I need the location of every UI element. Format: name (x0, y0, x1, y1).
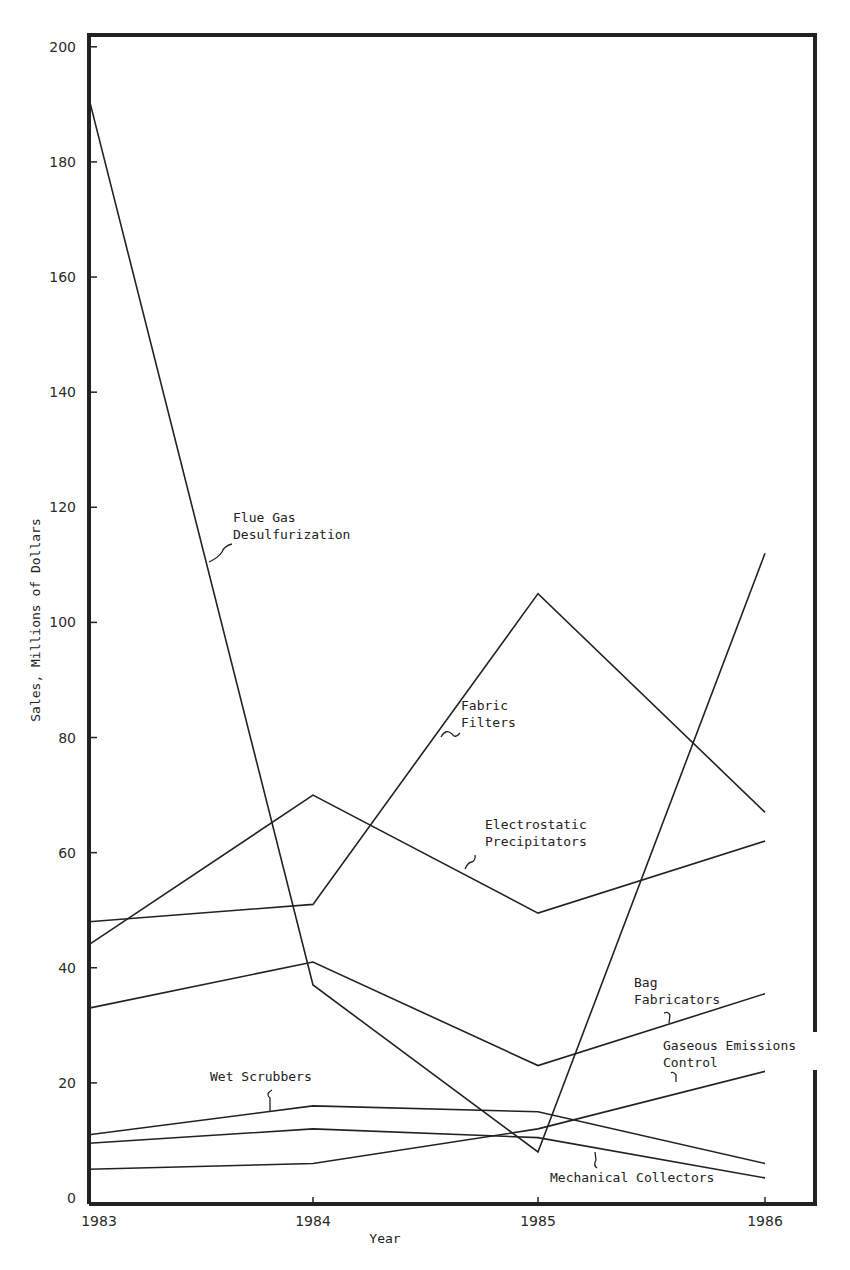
series-labels: Flue GasDesulfurizationFabricFiltersElec… (209, 510, 796, 1185)
series-label: Fabricators (634, 992, 720, 1007)
series-label: Filters (461, 715, 516, 730)
y-tick-label: 60 (58, 845, 76, 861)
frame-border (89, 35, 815, 1204)
y-tick-label: 180 (49, 154, 76, 170)
y-tick-label: 80 (58, 730, 76, 746)
series-label: Mechanical Collectors (550, 1170, 714, 1185)
y-tick-label: 40 (58, 960, 76, 976)
label-leader (595, 1152, 597, 1168)
label-leader (268, 1090, 272, 1112)
x-axis: 1983198419851986 (81, 1197, 783, 1229)
series-label: Fabric (461, 698, 508, 713)
y-tick-label: 120 (49, 499, 76, 515)
series-label: Gaseous Emissions (663, 1038, 796, 1053)
y-tick-label: 160 (49, 269, 76, 285)
x-tick-label: 1986 (747, 1213, 783, 1229)
x-tick-label: 1983 (81, 1213, 117, 1229)
y-tick-label: 140 (49, 384, 76, 400)
series-line-wet-scrubbers (89, 1106, 765, 1164)
label-leader (671, 1072, 676, 1082)
series-lines (89, 99, 765, 1178)
label-leader (664, 1012, 670, 1023)
series-label: Flue Gas (233, 510, 296, 525)
series-label: Wet Scrubbers (210, 1069, 312, 1084)
series-label: Precipitators (485, 834, 587, 849)
y-tick-label: 200 (49, 39, 76, 55)
series-line-electrostatic-precipitators (89, 795, 765, 945)
label-leader (209, 544, 232, 562)
y-tick-label: 0 (67, 1190, 76, 1206)
label-leader (441, 732, 460, 737)
y-tick-label: 20 (58, 1075, 76, 1091)
plot-frame (89, 35, 815, 1204)
x-tick-label: 1984 (295, 1213, 331, 1229)
y-tick-label: 100 (49, 614, 76, 630)
x-axis-title: Year (369, 1231, 400, 1246)
series-label: Desulfurization (233, 527, 350, 542)
series-label: Control (663, 1055, 718, 1070)
series-label: Electrostatic (485, 817, 587, 832)
line-chart: 020406080100120140160180200 198319841985… (0, 0, 850, 1270)
y-axis-title: Sales, Millions of Dollars (28, 518, 43, 722)
series-line-gaseous-emissions-control (89, 1071, 765, 1169)
x-tick-label: 1985 (520, 1213, 556, 1229)
series-label: Bag (634, 975, 657, 990)
label-leader (465, 855, 475, 869)
